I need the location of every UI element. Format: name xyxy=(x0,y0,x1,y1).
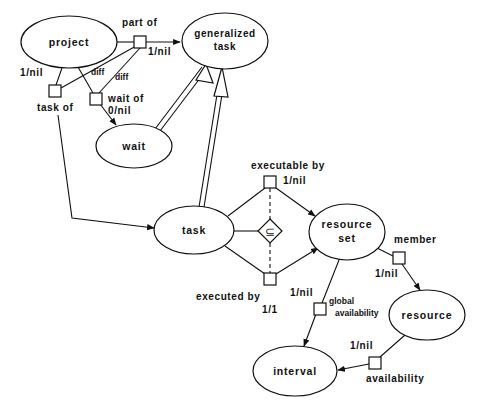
label-wait-of: wait of xyxy=(107,93,144,104)
node-interval[interactable]: interval xyxy=(253,346,337,396)
label-executable-by-card: 1/nil xyxy=(283,175,306,186)
node-wait-label: wait xyxy=(121,140,146,152)
label-wait-of-card: 0/nil xyxy=(108,105,131,116)
edge-project-taskof xyxy=(56,68,62,85)
edge-global-interval xyxy=(304,314,316,346)
label-task-of-card: 1/nil xyxy=(20,67,43,78)
label-diff-2: diff xyxy=(115,72,128,82)
label-availability: availability xyxy=(366,373,424,384)
node-project-label: project xyxy=(49,36,90,48)
label-availability-card: 1/nil xyxy=(350,340,373,351)
edge-member-resource xyxy=(402,264,420,290)
generalization-task xyxy=(199,67,228,207)
label-executable-by: executable by xyxy=(251,160,325,171)
label-part-of-card: 1/nil xyxy=(148,46,171,57)
edge-resourceset-member xyxy=(377,248,393,256)
relation-box-member[interactable] xyxy=(393,252,405,264)
generalization-wait xyxy=(155,64,213,131)
node-resource[interactable]: resource xyxy=(389,290,465,340)
node-interval-label: interval xyxy=(273,365,317,377)
node-project[interactable]: project xyxy=(21,16,117,68)
label-task-of: task of xyxy=(37,102,74,113)
node-resource-set[interactable]: resource set xyxy=(309,204,385,260)
edge-executable-resourceset xyxy=(276,188,315,216)
node-generalized-task-label-2: task xyxy=(214,41,236,52)
label-member-card: 1/nil xyxy=(375,268,398,279)
er-diagram: project generalized task wait task resou… xyxy=(0,0,490,411)
edge-executed-resourceset xyxy=(276,248,318,274)
relation-box-availability[interactable] xyxy=(369,357,381,369)
relation-box-part-of[interactable] xyxy=(134,36,146,48)
label-executed-by-card: 1/1 xyxy=(262,304,278,315)
node-resource-label: resource xyxy=(402,309,453,321)
label-member: member xyxy=(394,234,437,245)
label-executed-by-card-2: 1/nil xyxy=(290,287,313,298)
label-global-availability-1: global xyxy=(329,296,354,306)
relation-box-global-availability[interactable] xyxy=(314,303,326,315)
relation-box-executable-by[interactable] xyxy=(264,176,276,188)
label-part-of: part of xyxy=(122,17,157,28)
label-diff-1: diff xyxy=(91,67,104,77)
node-generalized-task-label-1: generalized xyxy=(194,28,256,39)
edge-task-executed xyxy=(225,246,265,274)
relation-box-executed-by[interactable] xyxy=(264,273,276,285)
node-task[interactable]: task xyxy=(154,206,234,254)
node-resource-set-label-1: resource xyxy=(322,218,373,230)
edge-resource-availability xyxy=(380,335,405,357)
node-task-label: task xyxy=(182,224,206,236)
edge-task-executable xyxy=(228,188,265,216)
relation-box-wait-of[interactable] xyxy=(90,93,102,105)
node-generalized-task[interactable]: generalized task xyxy=(182,13,268,69)
label-executed-by: executed by xyxy=(196,291,260,302)
edge-availability-interval xyxy=(338,364,369,370)
label-global-availability-2: availability xyxy=(335,308,379,318)
node-resource-set-label-2: set xyxy=(338,232,356,244)
subset-constraint[interactable]: ⊆ xyxy=(258,219,282,243)
subset-icon: ⊆ xyxy=(265,225,275,239)
relation-box-task-of[interactable] xyxy=(49,85,61,97)
node-wait[interactable]: wait xyxy=(96,124,172,168)
